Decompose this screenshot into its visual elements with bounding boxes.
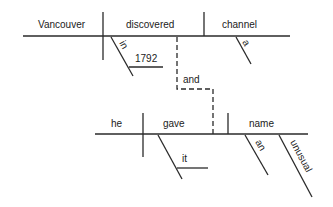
word-discovered: discovered <box>126 19 174 30</box>
word-and: and <box>183 74 200 85</box>
sentence-diagram: Vancouver discovered channel in 1792 a a… <box>0 0 333 207</box>
word-a: a <box>240 38 253 49</box>
word-in: in <box>117 39 130 51</box>
indirect-object-slant <box>158 135 182 179</box>
word-vancouver: Vancouver <box>38 19 86 30</box>
word-unusual: unusual <box>288 138 314 174</box>
word-name: name <box>249 118 274 129</box>
word-channel: channel <box>222 19 257 30</box>
word-he: he <box>111 118 123 129</box>
word-it: it <box>182 153 187 164</box>
word-gave: gave <box>163 118 185 129</box>
word-1792: 1792 <box>135 53 158 64</box>
word-an: an <box>253 138 268 153</box>
